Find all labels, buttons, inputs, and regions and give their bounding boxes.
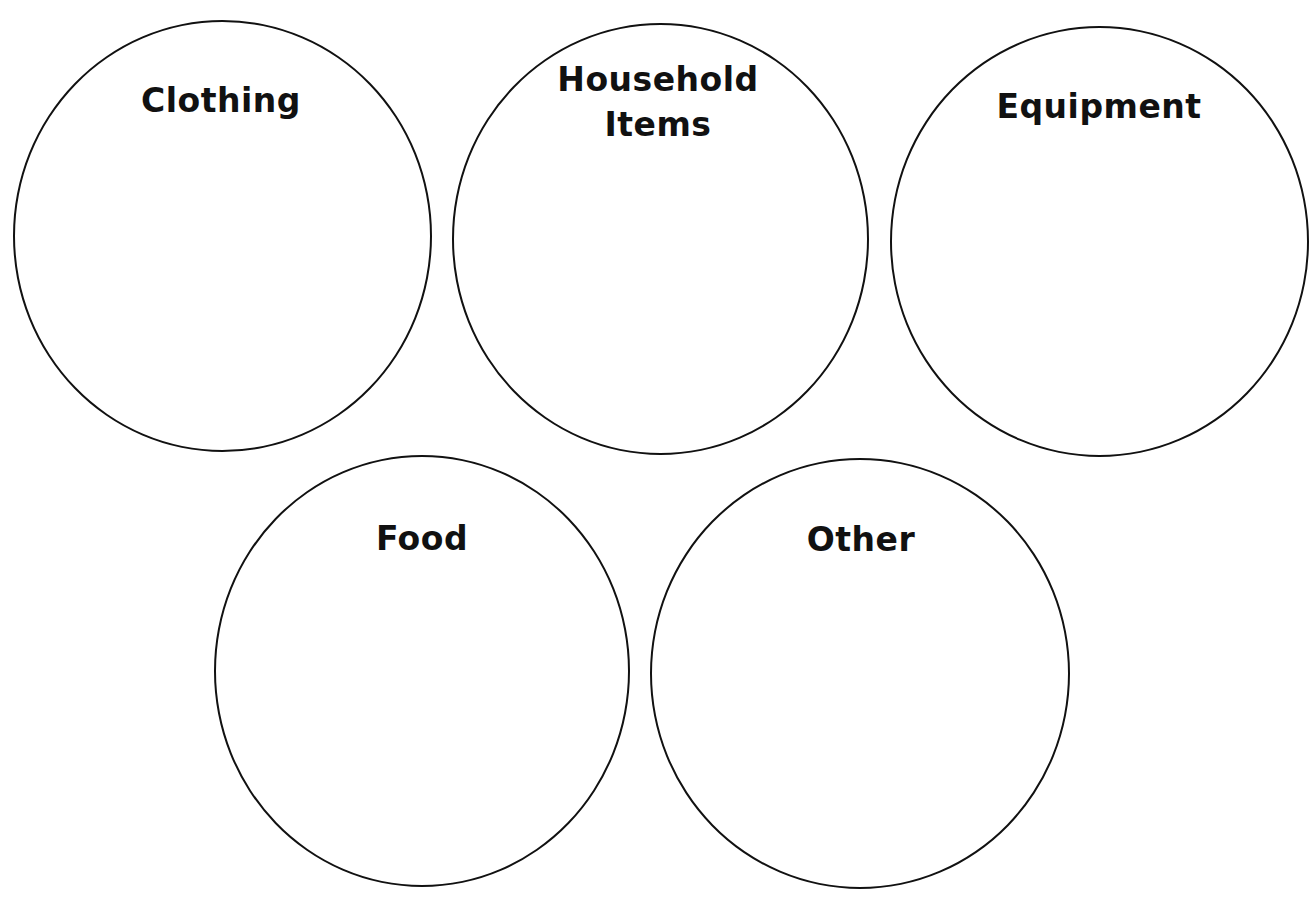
clothing-label-line: Clothing xyxy=(141,84,301,117)
clothing-label: Clothing xyxy=(141,84,301,117)
household-items-label-line-1: Household xyxy=(557,62,758,99)
equipment-label: Equipment xyxy=(996,90,1201,123)
food-label-line: Food xyxy=(376,522,468,555)
household-items-label-line-2: Items xyxy=(557,107,758,144)
other-label-line: Other xyxy=(807,523,915,556)
sorting-worksheet: Clothing Household Items Equipment Food … xyxy=(0,0,1311,910)
equipment-label-line: Equipment xyxy=(996,90,1201,123)
household-items-label: Household Items xyxy=(557,62,758,144)
food-label: Food xyxy=(376,522,468,555)
other-label: Other xyxy=(807,523,915,556)
